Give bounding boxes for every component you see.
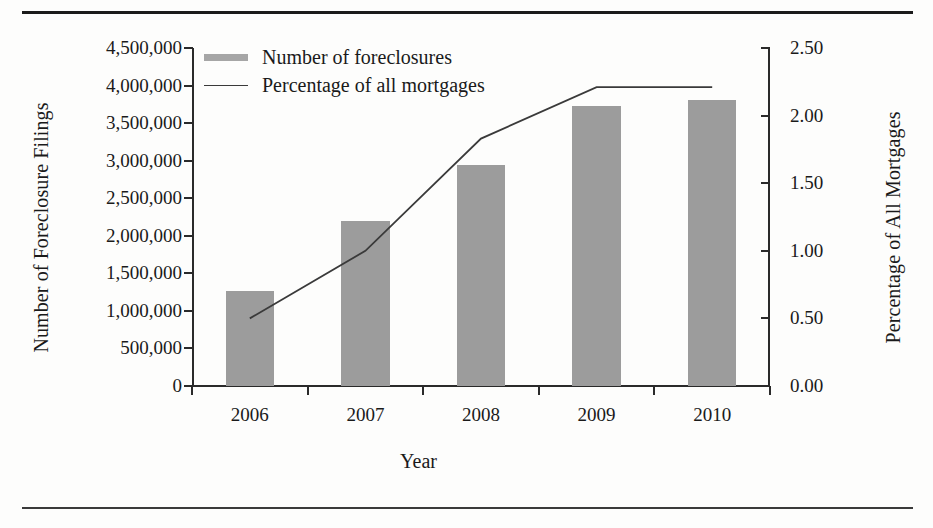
x-tick-label: 2007 [310, 404, 420, 426]
right-tick-label: 2.50 [790, 38, 860, 57]
legend-item-percentage: Percentage of all mortgages [204, 72, 544, 98]
left-tick-label: 2,000,000 [52, 226, 182, 245]
x-tick-mark [538, 386, 540, 395]
right-tick-label: 1.00 [790, 241, 860, 260]
x-tick-mark [191, 386, 193, 395]
top-rule [22, 11, 913, 14]
left-tick-label: 1,000,000 [52, 301, 182, 320]
line-swatch-icon [204, 85, 248, 86]
right-tick-label: 2.00 [790, 106, 860, 125]
left-tick-label: 2,500,000 [52, 188, 182, 207]
bottom-rule [22, 507, 913, 509]
x-axis-title: Year [0, 450, 933, 473]
right-tick-label: 0.00 [790, 376, 860, 395]
x-tick-label: 2008 [426, 404, 536, 426]
bar-swatch-icon [204, 54, 248, 61]
left-tick-label: 3,500,000 [52, 113, 182, 132]
x-tick-label: 2010 [657, 404, 767, 426]
right-tick-label: 1.50 [790, 173, 860, 192]
legend-label-foreclosures: Number of foreclosures [262, 46, 452, 69]
x-tick-mark [307, 386, 309, 395]
left-tick-label: 0 [52, 376, 182, 395]
left-tick-label: 4,500,000 [52, 38, 182, 57]
percentage-line-path [250, 87, 712, 318]
left-axis-title: Number of Foreclosure Filings [30, 68, 53, 388]
x-tick-mark [653, 386, 655, 395]
left-tick-label: 3,000,000 [52, 151, 182, 170]
left-tick-label: 4,000,000 [52, 76, 182, 95]
chart-page: Number of Foreclosure Filings Percentage… [0, 0, 933, 528]
left-tick-label: 500,000 [52, 338, 182, 357]
chart-legend: Number of foreclosures Percentage of all… [204, 44, 544, 100]
left-tick-label: 1,500,000 [52, 263, 182, 282]
legend-label-percentage: Percentage of all mortgages [262, 74, 485, 97]
right-tick-label: 0.50 [790, 308, 860, 327]
x-axis-title-text: Year [400, 450, 437, 472]
x-tick-mark [422, 386, 424, 395]
right-axis-title: Percentage of All Mortgages [882, 68, 905, 388]
x-tick-mark [769, 386, 771, 395]
x-tick-label: 2006 [195, 404, 305, 426]
x-tick-label: 2009 [542, 404, 652, 426]
legend-item-foreclosures: Number of foreclosures [204, 44, 544, 70]
